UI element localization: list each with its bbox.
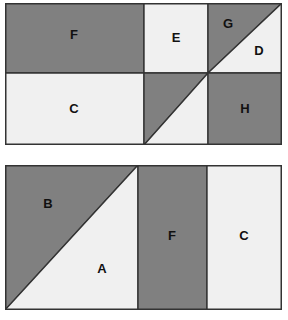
region-label-c-top: C [69,101,79,116]
region-label-f-bottom: F [168,228,176,243]
bottom-rectangle-canvas: BAFC [5,165,282,310]
top-rectangle-canvas: FEGDCH [5,3,282,145]
region-label-g-top: G [223,16,233,31]
region-label-c-bottom: C [239,228,249,243]
bottom-rectangle-diagram: BAFC [5,165,282,310]
region-label-f-top: F [70,27,78,42]
figure-stage: FEGDCH BAFC [0,0,288,320]
region-label-b-bottom: B [43,196,52,211]
region-label-a-bottom: A [97,261,107,276]
region-label-d-top: D [254,43,263,58]
region-label-h-top: H [240,101,249,116]
region-label-e-top: E [172,30,181,45]
top-rectangle-diagram: FEGDCH [5,3,282,145]
